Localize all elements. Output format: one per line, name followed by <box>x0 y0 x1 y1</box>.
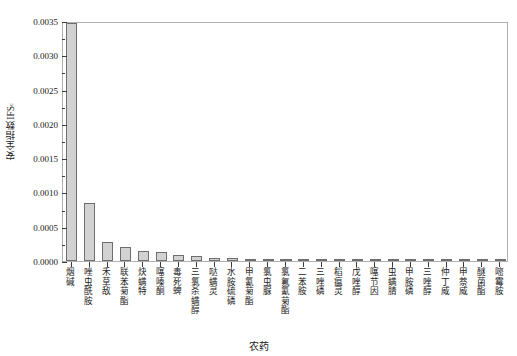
x-axis-tick-label: 炔螨特 <box>136 268 149 297</box>
y-axis-tick-label: 0.0035 <box>33 17 58 27</box>
bar <box>227 258 238 261</box>
bar <box>495 259 506 261</box>
x-axis-tick-label: 噻嗪酮 <box>154 268 167 297</box>
bar <box>120 247 131 261</box>
y-axis-tick-mark <box>62 228 67 229</box>
x-axis-tick-labels: 烟碱唑虫酰胺禾草敌联苯菊酯炔螨特噻嗪酮毒死蜱三氯杀螨醇哒螨灵水胺硫磷甲氰菊酯氯虫… <box>0 268 517 338</box>
y-axis-tick-label: 0.0015 <box>33 154 58 164</box>
bar <box>441 259 452 261</box>
y-axis-tick-mark <box>62 91 67 92</box>
y-axis-tick-label: 0.0005 <box>33 223 58 233</box>
y-axis-tick-label: 0.0010 <box>33 188 58 198</box>
bar <box>459 259 470 261</box>
x-axis-tick-label: 嘧霉胺 <box>493 268 506 297</box>
y-axis-title-text: 安全指数IFS <box>6 106 16 160</box>
bar-chart-figure: 安全指数IFSc 0.00000.00050.00100.00150.00200… <box>0 0 517 356</box>
x-axis-tick-label: 烟碱 <box>64 268 77 287</box>
y-axis-minor-tick-mark <box>62 39 65 40</box>
bar <box>66 23 77 261</box>
y-axis-tick-label: 0.0000 <box>33 257 58 267</box>
bar <box>352 259 363 261</box>
x-axis-tick-label: 醚菌酯 <box>475 268 488 297</box>
x-axis-tick-label: 毒死蜱 <box>171 268 184 297</box>
bar <box>263 259 274 261</box>
y-axis-tick-mark <box>62 22 67 23</box>
y-axis-minor-tick-mark <box>62 245 65 246</box>
y-axis-tick-mark <box>62 159 67 160</box>
x-axis-tick-label: 甲萘威 <box>457 268 470 297</box>
y-axis-minor-tick-mark <box>62 108 65 109</box>
x-axis-tick-label: 仲丁威 <box>439 268 452 297</box>
bar <box>138 251 149 261</box>
y-axis-minor-tick-mark <box>62 73 65 74</box>
bar <box>280 259 291 261</box>
y-axis-tick-mark <box>62 125 67 126</box>
bar <box>298 259 309 261</box>
x-axis-tick-label: 虫螨腈 <box>386 268 399 297</box>
y-axis-tick-mark <box>62 193 67 194</box>
x-axis-tick-label: 哒螨灵 <box>207 268 220 297</box>
y-axis-tick-label: 0.0020 <box>33 120 58 130</box>
bar <box>316 259 327 261</box>
y-axis-tick-label: 0.0030 <box>33 51 58 61</box>
x-axis-tick-label: 氯虫脲 <box>261 268 274 297</box>
bar <box>477 259 488 261</box>
bar <box>173 255 184 261</box>
x-axis-tick-label: 禾草敌 <box>100 268 113 297</box>
bar <box>245 259 256 261</box>
x-axis-title: 农药 <box>0 338 517 353</box>
x-axis-tick-label: 唑虫酰胺 <box>82 268 95 306</box>
x-axis-tick-label: 噻节因 <box>368 268 381 297</box>
bar <box>102 242 113 261</box>
x-axis-tick-label: 甲氰菊酯 <box>243 268 256 306</box>
x-axis-tick-label: 三唑醇 <box>421 268 434 297</box>
bar <box>209 258 220 261</box>
bar <box>405 259 416 261</box>
y-axis-minor-tick-mark <box>62 142 65 143</box>
bar <box>423 259 434 261</box>
y-axis-title-subscript: c <box>7 103 14 106</box>
x-axis-tick-label: 水胺硫磷 <box>225 268 238 306</box>
x-axis-tick-label: 氯氟氰菊酯 <box>279 268 292 316</box>
bar-series <box>63 23 507 261</box>
x-axis-tick-label: 稻瘟灵 <box>332 268 345 297</box>
bar <box>156 252 167 261</box>
y-axis-tick-mark <box>62 56 67 57</box>
bar <box>334 259 345 261</box>
x-axis-tick-label: 二苯胺 <box>296 268 309 297</box>
y-axis-tick-label: 0.0025 <box>33 86 58 96</box>
y-axis-minor-tick-mark <box>62 211 65 212</box>
x-axis-tick-label: 联苯菊酯 <box>118 268 131 306</box>
bar <box>191 256 202 261</box>
bar <box>84 203 95 261</box>
bar <box>370 259 381 261</box>
y-axis-tick-mark <box>62 262 67 263</box>
y-axis-minor-tick-mark <box>62 176 65 177</box>
x-axis-tick-label: 戊唑醇 <box>350 268 363 297</box>
bar <box>388 259 399 261</box>
plot-area <box>62 22 508 262</box>
x-axis-tick-label: 三氯杀螨醇 <box>189 268 202 316</box>
x-axis-tick-label: 三唑磷 <box>314 268 327 297</box>
x-axis-tick-label: 甲胺磷 <box>403 268 416 297</box>
